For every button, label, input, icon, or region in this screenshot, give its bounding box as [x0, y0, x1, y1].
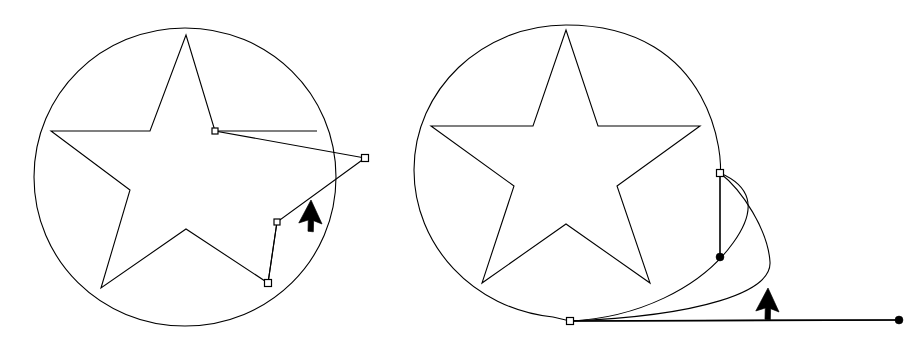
mouse-pointer-icon-right [754, 288, 786, 323]
anchor-point-upper-inner-left[interactable] [212, 128, 218, 134]
anchor-point-bottom-left[interactable] [265, 280, 272, 287]
dragged-edge-lower-left[interactable] [268, 222, 277, 283]
anchor-point-dragged-tip-left[interactable] [362, 155, 369, 162]
bezier-handle-line-horizontal[interactable] [574, 320, 897, 321]
star-shape-left[interactable] [51, 35, 365, 288]
bezier-handle-dot-horizontal[interactable] [895, 316, 903, 324]
anchor-point-lower-inner-left[interactable] [274, 219, 280, 225]
bulge-curve-right[interactable] [570, 173, 770, 321]
enclosing-circle-right[interactable] [414, 25, 748, 321]
vector-drawing-surface [0, 0, 914, 342]
figure-right [414, 25, 903, 325]
star-shape-right[interactable] [431, 30, 700, 283]
enclosing-circle-left[interactable] [34, 28, 336, 326]
mouse-pointer-icon-left [297, 200, 329, 235]
anchor-point-right-side[interactable] [717, 170, 724, 177]
figure-left [34, 28, 369, 326]
anchor-point-bottom-left-right[interactable] [567, 318, 574, 325]
bezier-handle-dot-vertical[interactable] [716, 253, 724, 261]
illustration-canvas [0, 0, 914, 342]
